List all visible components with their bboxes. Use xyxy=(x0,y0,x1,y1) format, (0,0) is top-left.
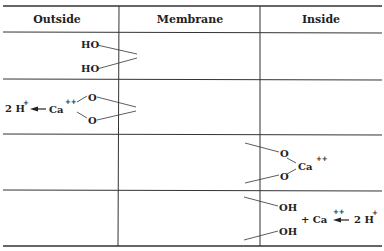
row-2-outside: 2 H + Ca ++ O O xyxy=(5,92,136,126)
proton-charge: + xyxy=(23,98,29,107)
oxygen-bottom: O xyxy=(280,171,289,182)
header-rule xyxy=(3,32,382,33)
bond-top xyxy=(97,97,136,107)
bond-top xyxy=(245,143,279,152)
chelate-bond-top xyxy=(287,158,296,163)
bond-top xyxy=(244,197,278,206)
row-rule-3 xyxy=(3,190,382,191)
calcium-ion: Ca xyxy=(298,161,313,172)
column-divider-1 xyxy=(118,6,119,246)
hydroxyl-top: HO xyxy=(81,39,99,50)
bond-bottom xyxy=(97,111,136,120)
hydroxyl-bottom: HO xyxy=(81,63,99,74)
chelate-bond-top xyxy=(77,96,87,102)
bond-bottom xyxy=(244,231,278,240)
oxygen-top: O xyxy=(88,92,97,103)
oxygen-bottom: O xyxy=(88,115,97,126)
row-rule-2 xyxy=(3,134,382,135)
hydroxyl-bottom: OH xyxy=(279,226,297,237)
oxygen-top: O xyxy=(280,148,289,159)
proton-charge: + xyxy=(372,208,378,217)
calcium-transport-diagram: Outside Membrane Inside HO HO 2 H + Ca +… xyxy=(0,0,384,251)
arrow-left-icon xyxy=(333,218,341,223)
row-1-outside: HO HO xyxy=(81,39,137,74)
calcium-charge: ++ xyxy=(316,154,328,163)
hydroxyl-top: OH xyxy=(279,202,297,213)
row-rule-1 xyxy=(3,79,382,80)
row-3-inside: O O Ca ++ xyxy=(245,143,328,183)
protons-label: 2 H xyxy=(5,103,25,114)
protons-label: 2 H xyxy=(354,214,374,225)
chelate-bond-bottom xyxy=(77,112,87,118)
header-outside: Outside xyxy=(33,13,81,26)
bond-bottom xyxy=(97,58,137,69)
header-inside: Inside xyxy=(302,13,340,26)
calcium-charge: ++ xyxy=(333,207,345,216)
bond-bottom xyxy=(245,175,279,183)
calcium-charge: ++ xyxy=(65,97,77,106)
table-grid xyxy=(3,6,382,246)
plus-calcium: + Ca xyxy=(301,214,328,225)
row-4-inside: OH OH + Ca ++ 2 H + xyxy=(244,197,378,240)
calcium-ion: Ca xyxy=(49,104,64,115)
arrow-left-icon xyxy=(30,107,38,112)
bond-top xyxy=(97,45,137,54)
header-membrane: Membrane xyxy=(157,13,223,26)
